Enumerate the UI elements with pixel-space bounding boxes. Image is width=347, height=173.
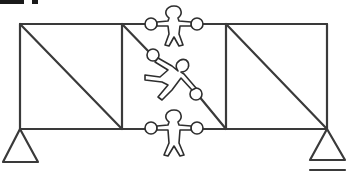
node-icon	[191, 122, 203, 134]
pin-support-icon	[3, 129, 38, 162]
person-icon	[157, 6, 191, 46]
top-figure	[145, 6, 203, 46]
heading-fragment	[0, 0, 38, 4]
truss-diagram	[0, 0, 347, 173]
left-support	[3, 129, 38, 162]
person-icon	[157, 110, 191, 156]
diagonal-figure	[145, 49, 202, 100]
node-icon	[145, 122, 157, 134]
person-icon	[145, 58, 196, 100]
right-support	[310, 129, 345, 170]
diagonal-right	[226, 24, 327, 129]
diagonal-left	[20, 24, 122, 129]
node-icon	[145, 18, 157, 30]
roller-support-icon	[310, 129, 345, 160]
node-icon	[191, 18, 203, 30]
bottom-figure	[145, 110, 203, 156]
